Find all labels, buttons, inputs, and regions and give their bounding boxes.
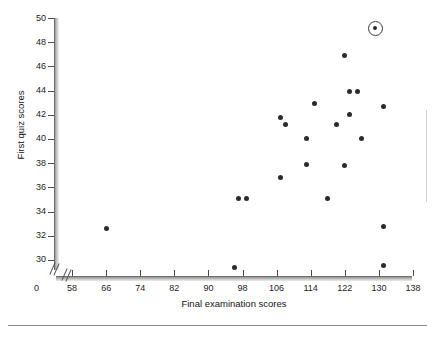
y-axis-title: First quiz scores <box>16 65 26 185</box>
y-tick-label: 50 <box>12 14 46 23</box>
data-point <box>334 122 339 127</box>
y-tick <box>48 115 54 116</box>
x-tick-label: 74 <box>123 283 157 293</box>
y-tick <box>48 91 54 92</box>
y-tick <box>48 236 54 237</box>
data-point <box>355 89 360 94</box>
data-point <box>236 196 241 201</box>
y-tick <box>48 212 54 213</box>
y-tick-label: 34 <box>12 207 46 216</box>
data-point <box>381 104 386 109</box>
data-point <box>104 226 109 231</box>
x-tick-label: 90 <box>191 283 225 293</box>
page-bottom-rule <box>8 325 427 326</box>
page-right-rule <box>426 110 427 202</box>
data-point <box>232 265 237 270</box>
data-point <box>278 175 283 180</box>
y-tick <box>48 163 54 164</box>
x-axis-line <box>56 276 412 281</box>
data-point <box>381 263 386 268</box>
plot-area <box>55 18 413 272</box>
x-tick-label: 82 <box>157 283 191 293</box>
x-tick-label: 58 <box>55 283 89 293</box>
data-point <box>283 122 288 127</box>
data-point <box>347 112 352 117</box>
y-tick-label-text: 48 <box>20 38 46 47</box>
data-point <box>304 162 309 167</box>
y-tick-label: 48 <box>12 38 46 47</box>
data-point <box>312 101 317 106</box>
highlighted-data-point <box>373 26 377 30</box>
data-point <box>342 163 347 168</box>
y-tick <box>48 42 54 43</box>
x-tick-label: 138 <box>396 283 430 293</box>
data-point <box>278 115 283 120</box>
data-point <box>347 89 352 94</box>
x-tick-label: 106 <box>260 283 294 293</box>
y-tick-label-text: 30 <box>20 255 46 264</box>
x-tick-label: 98 <box>226 283 260 293</box>
x-tick-label: 122 <box>328 283 362 293</box>
origin-label: 0 <box>34 283 39 293</box>
y-tick <box>48 66 54 67</box>
y-tick <box>48 18 54 19</box>
data-point <box>325 196 330 201</box>
x-tick <box>413 270 414 276</box>
data-point <box>359 136 364 141</box>
y-tick <box>48 187 54 188</box>
data-point <box>244 196 249 201</box>
x-axis-title: Final examination scores <box>55 299 413 309</box>
x-tick-label: 130 <box>362 283 396 293</box>
y-tick <box>48 260 54 261</box>
y-tick-label-text: 34 <box>20 207 46 216</box>
data-point <box>304 136 309 141</box>
x-tick-label: 114 <box>294 283 328 293</box>
data-point <box>381 224 386 229</box>
y-tick-label-text: 50 <box>20 14 46 23</box>
y-tick-label-text: 32 <box>20 231 46 240</box>
data-point <box>342 53 347 58</box>
x-tick-label: 66 <box>89 283 123 293</box>
y-tick-label: 32 <box>12 231 46 240</box>
y-tick <box>48 139 54 140</box>
y-tick-label: 30 <box>12 255 46 264</box>
scatter-plot-figure: 3032343638404244464850 58667482909810611… <box>0 0 435 341</box>
